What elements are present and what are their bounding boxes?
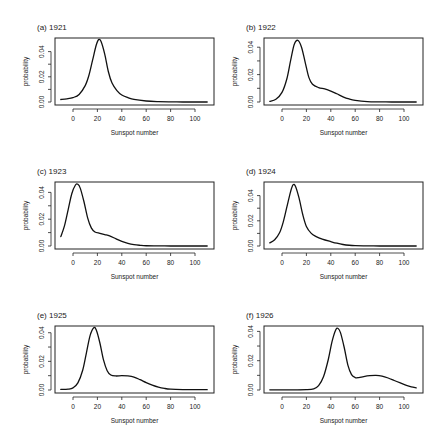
panel-title: (b) 1922 — [246, 23, 276, 32]
x-tick-label: 80 — [167, 259, 175, 266]
y-tick-label: 0.02 — [38, 355, 45, 368]
y-axis-label: probability — [22, 56, 30, 86]
panel-f: (f) 1926020406080100Sunspot number0.000.… — [231, 311, 423, 425]
x-tick-label: 60 — [352, 403, 360, 410]
x-tick-label: 60 — [143, 403, 151, 410]
density-curve — [61, 327, 207, 389]
x-tick-label: 40 — [118, 259, 126, 266]
panel-title: (e) 1925 — [37, 311, 67, 320]
y-tick-label: 0.02 — [38, 212, 45, 225]
panel-e: (e) 1925020406080100Sunspot number0.000.… — [22, 311, 214, 425]
y-tick-label: 0.04 — [247, 41, 254, 54]
x-tick-label: 40 — [118, 403, 126, 410]
x-tick-label: 100 — [190, 115, 201, 122]
panel-d: (d) 1924020406080100Sunspot number0.000.… — [231, 167, 423, 281]
x-tick-label: 100 — [399, 259, 410, 266]
x-tick-label: 80 — [376, 259, 384, 266]
panel-title: (f) 1926 — [246, 311, 274, 320]
panel-c: (c) 1923020406080100Sunspot number0.000.… — [22, 167, 214, 281]
plot-frame — [55, 182, 214, 249]
y-tick-label: 0.02 — [38, 70, 45, 83]
x-tick-label: 40 — [327, 115, 335, 122]
y-tick-label: 0.04 — [38, 45, 45, 58]
y-tick-label: 0.04 — [38, 326, 45, 339]
y-tick-label: 0.04 — [247, 189, 254, 202]
x-axis-label: Sunspot number — [320, 417, 369, 425]
x-axis-label: Sunspot number — [111, 417, 160, 425]
chart-grid: (a) 1921020406080100Sunspot number0.000.… — [0, 0, 448, 446]
x-tick-label: 0 — [280, 259, 284, 266]
density-curve — [270, 184, 416, 246]
y-tick-label: 0.00 — [247, 383, 254, 396]
x-tick-label: 60 — [352, 115, 360, 122]
figure: (a) 1921020406080100Sunspot number0.000.… — [0, 0, 448, 446]
x-tick-label: 0 — [71, 259, 75, 266]
panel-title: (a) 1921 — [37, 23, 67, 32]
x-axis-label: Sunspot number — [111, 273, 160, 281]
x-tick-label: 80 — [376, 403, 384, 410]
y-axis-label: probability — [231, 344, 239, 374]
x-axis-label: Sunspot number — [320, 129, 369, 137]
x-tick-label: 20 — [303, 115, 311, 122]
x-tick-label: 80 — [167, 115, 175, 122]
y-axis-label: probability — [22, 344, 30, 374]
x-tick-label: 20 — [303, 259, 311, 266]
x-axis-label: Sunspot number — [111, 129, 160, 137]
x-tick-label: 40 — [118, 115, 126, 122]
x-tick-label: 20 — [94, 403, 102, 410]
y-tick-label: 0.00 — [38, 95, 45, 108]
x-tick-label: 100 — [399, 115, 410, 122]
panel-title: (d) 1924 — [246, 167, 276, 176]
x-tick-label: 100 — [190, 403, 201, 410]
panel-a: (a) 1921020406080100Sunspot number0.000.… — [22, 23, 214, 137]
y-axis-label: probability — [22, 200, 30, 230]
y-tick-label: 0.02 — [247, 68, 254, 81]
plot-frame — [264, 182, 423, 249]
x-tick-label: 60 — [143, 259, 151, 266]
density-curve — [270, 40, 416, 102]
x-tick-label: 0 — [71, 115, 75, 122]
panel-title: (c) 1923 — [37, 167, 67, 176]
x-tick-label: 60 — [352, 259, 360, 266]
x-tick-label: 60 — [143, 115, 151, 122]
x-tick-label: 20 — [303, 403, 311, 410]
x-tick-label: 80 — [376, 115, 384, 122]
x-tick-label: 20 — [94, 259, 102, 266]
x-tick-label: 20 — [94, 115, 102, 122]
density-curve — [61, 184, 207, 246]
y-tick-label: 0.00 — [38, 383, 45, 396]
x-tick-label: 100 — [399, 403, 410, 410]
x-tick-label: 0 — [71, 403, 75, 410]
x-tick-label: 100 — [190, 259, 201, 266]
y-tick-label: 0.04 — [247, 325, 254, 338]
plot-frame — [55, 326, 214, 393]
y-tick-label: 0.00 — [247, 95, 254, 108]
y-tick-label: 0.00 — [38, 239, 45, 252]
density-curve — [61, 39, 207, 102]
x-tick-label: 80 — [167, 403, 175, 410]
panel-b: (b) 1922020406080100Sunspot number0.000.… — [231, 23, 423, 137]
y-axis-label: probability — [231, 56, 239, 86]
x-tick-label: 0 — [280, 115, 284, 122]
x-axis-label: Sunspot number — [320, 273, 369, 281]
density-curve — [270, 328, 416, 390]
x-tick-label: 40 — [327, 259, 335, 266]
y-tick-label: 0.00 — [247, 239, 254, 252]
x-tick-label: 0 — [280, 403, 284, 410]
x-tick-label: 40 — [327, 403, 335, 410]
y-tick-label: 0.02 — [247, 214, 254, 227]
y-tick-label: 0.04 — [38, 186, 45, 199]
y-axis-label: probability — [231, 200, 239, 230]
y-tick-label: 0.02 — [247, 354, 254, 367]
